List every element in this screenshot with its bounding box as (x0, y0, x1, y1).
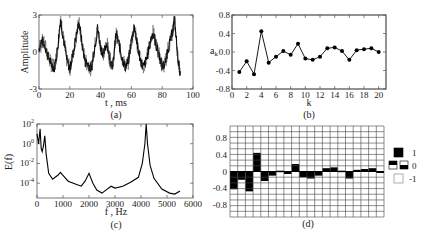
y-tick-label: 0.4 (216, 150, 228, 160)
x-tick-label: 2 (244, 90, 249, 100)
data-point (245, 59, 249, 63)
x-tick-label: 18 (360, 90, 370, 100)
grid-bar (253, 153, 261, 172)
panel-a-amplitude-plot: 020406080100-303 Amplitude t , ms (a) (19, 10, 200, 121)
data-point (347, 58, 351, 62)
y-axis-label-c: E(f) (3, 154, 15, 170)
caption-d: (d) (302, 218, 314, 230)
y-axis-label-b: ak (210, 45, 218, 58)
x-tick-label: 14 (330, 90, 340, 100)
data-point (252, 72, 256, 76)
x-tick-label: 6 (274, 90, 279, 100)
legend: 10-1 (389, 148, 417, 184)
x-tick-label: 6000 (184, 199, 203, 209)
panel-b-coefficient-plot: 02468101214161820-0.8-0.40.00.40.8 ak k … (210, 10, 386, 121)
x-tick-label: 20 (374, 90, 384, 100)
x-axis-label-c: f , Hz (105, 206, 128, 217)
data-point (325, 46, 329, 50)
data-point (311, 58, 315, 62)
x-tick-label: 20 (65, 90, 75, 100)
x-tick-label: 0 (35, 199, 40, 209)
y-tick-label: 0.4 (219, 29, 231, 39)
data-point (281, 49, 285, 53)
y-axis-subscript: k (214, 50, 218, 58)
x-tick-label: 5000 (158, 199, 177, 209)
legend-swatch-full (394, 148, 403, 157)
data-point (362, 47, 366, 51)
y-tick-label: 10-2 (20, 157, 34, 168)
x-tick-label: 12 (316, 90, 325, 100)
legend-label: 0 (412, 161, 417, 171)
x-tick-label: 60 (127, 90, 137, 100)
y-tick-label: 0 (223, 167, 228, 177)
y-tick-label: -3 (30, 84, 38, 94)
y-tick-label: -0.8 (216, 84, 231, 94)
x-tick-label: 8 (288, 90, 293, 100)
data-point (369, 46, 373, 50)
grid-bar (261, 172, 269, 182)
y-tick-label: -0.8 (213, 200, 228, 210)
y-tick-label: -0.4 (216, 66, 231, 76)
x-tick-label: 80 (158, 90, 168, 100)
x-tick-label: 4 (259, 90, 264, 100)
data-point (296, 42, 300, 46)
data-point (355, 48, 359, 52)
data-point (237, 70, 241, 74)
grid-bar (238, 172, 246, 180)
x-tick-label: 1000 (54, 199, 73, 209)
y-tick-label: -0.4 (213, 183, 228, 193)
caption-b: (b) (303, 109, 315, 121)
y-axis-label: Amplitude (19, 30, 30, 73)
legend-swatch-empty (394, 174, 403, 183)
data-point (267, 61, 271, 65)
x-tick-label: 2000 (80, 199, 99, 209)
x-tick-label: 16 (345, 90, 355, 100)
x-axis-label-b: k (307, 97, 312, 108)
data-point (318, 55, 322, 59)
y-tick-label: 0.8 (219, 10, 231, 20)
data-point (333, 45, 337, 49)
grid-bar (292, 164, 300, 171)
x-tick-label: 100 (186, 90, 200, 100)
y-tick-label: 0.8 (216, 133, 228, 143)
x-axis-label: t , ms (105, 97, 127, 108)
y-tick-label: 100 (22, 138, 34, 149)
data-point (303, 56, 307, 60)
grid-bar (315, 172, 323, 176)
data-point (377, 50, 381, 54)
data-point (289, 53, 293, 57)
grid-bar (299, 172, 307, 178)
y-tick-label: 102 (22, 118, 34, 129)
caption-c: (c) (110, 219, 121, 231)
y-tick-label: 0 (33, 47, 38, 57)
data-point (274, 55, 278, 59)
legend-label: -1 (409, 174, 417, 184)
y-tick-label: 10-4 (20, 177, 34, 188)
x-tick-label: 0 (37, 90, 42, 100)
grid-bar (330, 167, 338, 171)
x-tick-label: 0 (230, 90, 235, 100)
grid-bar (230, 172, 238, 190)
y-tick-label: 3 (33, 10, 38, 20)
panel-c-spectrum-plot: 010002000300040005000600010-410-2100102 … (3, 118, 203, 231)
legend-label: 1 (412, 148, 417, 158)
grid-bar (269, 172, 277, 176)
data-point (340, 49, 344, 53)
caption-a: (a) (110, 109, 121, 121)
y-tick-label: 0.0 (219, 47, 231, 57)
figure: 020406080100-303 Amplitude t , ms (a) 02… (0, 0, 425, 237)
panel-d-grid-plot: 0.80.40-0.4-0.8 10-1 (d) (213, 126, 417, 230)
data-point (259, 29, 263, 33)
x-tick-label: 4000 (132, 199, 151, 209)
